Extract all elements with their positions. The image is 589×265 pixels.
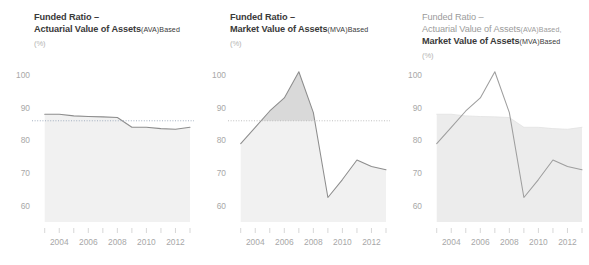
x-tick-label: 2008 bbox=[304, 237, 323, 247]
y-tick-label: 80 bbox=[217, 135, 227, 145]
plot-svg-mva: 1009080706020042006200820102012 bbox=[196, 0, 392, 265]
x-tick-label: 2012 bbox=[558, 237, 577, 247]
x-tick-label: 2008 bbox=[108, 237, 127, 247]
x-tick-label: 2004 bbox=[50, 237, 69, 247]
x-tick-label: 2006 bbox=[79, 237, 98, 247]
y-tick-label: 100 bbox=[212, 70, 226, 80]
y-tick-label: 80 bbox=[21, 135, 31, 145]
y-tick-label: 60 bbox=[21, 201, 31, 211]
y-tick-label: 80 bbox=[413, 135, 423, 145]
y-tick-label: 60 bbox=[413, 201, 423, 211]
series-area-fill bbox=[241, 72, 386, 222]
x-tick-label: 2012 bbox=[166, 237, 185, 247]
y-tick-label: 60 bbox=[217, 201, 227, 211]
x-tick-label: 2012 bbox=[362, 237, 381, 247]
chart-panel-ava: Funded Ratio – Actuarial Value of Assets… bbox=[0, 0, 196, 265]
chart-panel-mva: Funded Ratio – Market Value of Assets(MV… bbox=[196, 0, 392, 265]
y-tick-label: 90 bbox=[413, 103, 423, 113]
x-tick-label: 2004 bbox=[442, 237, 461, 247]
figure-canvas: Funded Ratio – Actuarial Value of Assets… bbox=[0, 0, 589, 265]
series-area-fill bbox=[45, 114, 190, 222]
y-tick-label: 70 bbox=[21, 168, 31, 178]
y-tick-label: 90 bbox=[217, 103, 227, 113]
y-tick-label: 70 bbox=[413, 168, 423, 178]
y-tick-label: 100 bbox=[408, 70, 422, 80]
x-tick-label: 2008 bbox=[500, 237, 519, 247]
plot-svg-ava: 1009080706020042006200820102012 bbox=[0, 0, 196, 265]
x-tick-label: 2006 bbox=[275, 237, 294, 247]
y-tick-label: 100 bbox=[16, 70, 30, 80]
x-tick-label: 2010 bbox=[333, 237, 352, 247]
x-tick-label: 2010 bbox=[137, 237, 156, 247]
x-tick-label: 2006 bbox=[471, 237, 490, 247]
chart-panel-combined: Funded Ratio – Actuarial Value of Assets… bbox=[392, 0, 588, 265]
plot-svg-combined: 1009080706020042006200820102012 bbox=[392, 0, 588, 265]
x-tick-label: 2004 bbox=[246, 237, 265, 247]
series-area-fill bbox=[437, 114, 582, 222]
x-tick-label: 2010 bbox=[529, 237, 548, 247]
y-tick-label: 90 bbox=[21, 103, 31, 113]
y-tick-label: 70 bbox=[217, 168, 227, 178]
